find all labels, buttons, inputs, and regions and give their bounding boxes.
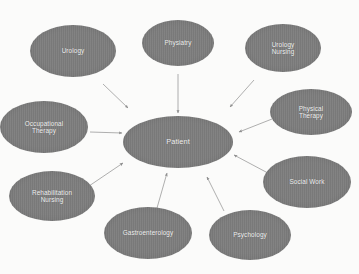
node-psychology-label: Psychology — [230, 231, 270, 238]
node-urology-label: Urology — [59, 47, 88, 54]
node-social-work[interactable]: Social Work — [263, 156, 351, 208]
node-gastroenterology[interactable]: Gastroenterology — [104, 207, 192, 259]
node-occupational-therapy[interactable]: Occupational Therapy — [0, 101, 88, 153]
edge-urology-nursing-to-patient — [230, 80, 254, 107]
node-physical-therapy-label: Physical Therapy — [296, 105, 327, 119]
edge-rehabilitation-nursing-to-patient — [89, 163, 123, 186]
node-social-work-label: Social Work — [286, 178, 327, 185]
diagram-canvas: Patient Urology Physiatry Urology Nursin… — [0, 0, 359, 274]
node-occupational-therapy-label: Occupational Therapy — [22, 120, 67, 134]
node-patient[interactable]: Patient — [123, 116, 233, 168]
node-physiatry-label: Physiatry — [161, 39, 194, 46]
edge-psychology-to-patient — [207, 177, 224, 211]
edge-social-work-to-patient — [234, 155, 266, 172]
edge-gastroenterology-to-patient — [157, 173, 167, 208]
edge-physical-therapy-to-patient — [239, 119, 272, 132]
node-rehabilitation-nursing-label: Rehabilitation Nursing — [29, 189, 75, 203]
node-urology-nursing[interactable]: Urology Nursing — [245, 24, 321, 72]
node-psychology[interactable]: Psychology — [209, 210, 291, 260]
node-rehabilitation-nursing[interactable]: Rehabilitation Nursing — [9, 171, 95, 221]
node-urology[interactable]: Urology — [30, 25, 116, 77]
node-urology-nursing-label: Urology Nursing — [269, 41, 298, 55]
node-gastroenterology-label: Gastroenterology — [120, 229, 177, 236]
edge-occupational-therapy-to-patient — [90, 132, 122, 133]
node-physiatry[interactable]: Physiatry — [142, 20, 214, 66]
node-patient-label: Patient — [163, 138, 193, 146]
edge-urology-to-patient — [103, 84, 128, 108]
node-physical-therapy[interactable]: Physical Therapy — [270, 89, 352, 135]
